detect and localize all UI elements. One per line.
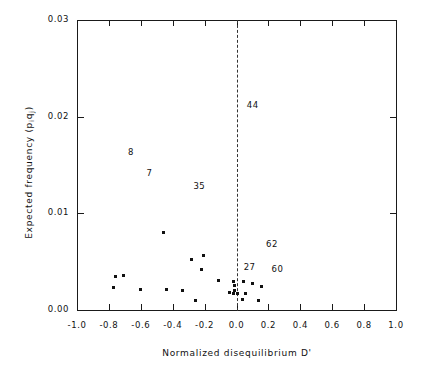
y-tick-right <box>390 20 397 21</box>
data-point <box>217 279 220 282</box>
x-tick <box>141 304 142 310</box>
data-point <box>190 258 193 261</box>
y-tick-right <box>390 117 397 118</box>
x-tick-top <box>173 20 174 26</box>
data-point <box>251 282 254 285</box>
data-point <box>244 292 247 295</box>
x-tick-top <box>300 20 301 26</box>
data-point-label: 35 <box>193 181 205 191</box>
data-point-label: 60 <box>272 264 284 274</box>
axis-right <box>396 20 397 311</box>
x-tick <box>332 304 333 310</box>
x-tick-top <box>205 20 206 26</box>
x-tick-top <box>141 20 142 26</box>
data-point <box>139 288 142 291</box>
y-tick-right <box>390 310 397 311</box>
axis-left <box>77 20 78 311</box>
data-point-label: 8 <box>128 147 134 157</box>
x-tick <box>300 304 301 310</box>
y-tick <box>77 20 84 21</box>
data-point <box>257 299 260 302</box>
data-point <box>232 280 235 283</box>
data-point <box>181 289 184 292</box>
data-point <box>194 299 197 302</box>
y-tick <box>77 117 84 118</box>
data-point <box>242 280 245 283</box>
y-tick <box>77 213 84 214</box>
data-point-label: 7 <box>146 168 152 178</box>
data-point <box>202 254 205 257</box>
data-point <box>200 268 203 271</box>
data-point-label: 27 <box>244 262 256 272</box>
reference-line-zero <box>237 20 238 311</box>
x-tick-top <box>332 20 333 26</box>
data-point <box>236 292 239 295</box>
x-tick-label: 1.0 <box>376 320 416 330</box>
y-tick-right <box>390 213 397 214</box>
y-axis-title: Expected frequency (piqj) <box>24 72 37 272</box>
data-point <box>162 231 165 234</box>
data-point <box>233 284 236 287</box>
y-tick-label: 0.03 <box>29 14 69 24</box>
x-tick <box>364 304 365 310</box>
data-point <box>114 275 117 278</box>
data-point <box>232 292 235 295</box>
x-axis-title: Normalized disequilibrium D' <box>77 348 397 358</box>
scatter-plot-figure: 448735622760 -1.0-0.8-0.6-0.4-0.20.00.20… <box>0 0 428 372</box>
x-tick-top <box>109 20 110 26</box>
data-point-label: 62 <box>266 239 278 249</box>
y-axis-title-text: Expected frequency (piqj) <box>24 106 34 239</box>
x-tick <box>109 304 110 310</box>
x-tick-top <box>268 20 269 26</box>
data-point <box>228 291 231 294</box>
x-tick <box>173 304 174 310</box>
data-point <box>122 274 125 277</box>
x-tick-top <box>364 20 365 26</box>
y-tick-label: 0.00 <box>29 304 69 314</box>
data-point <box>241 298 244 301</box>
data-point <box>112 286 115 289</box>
x-tick <box>268 304 269 310</box>
data-point <box>165 288 168 291</box>
data-point-label: 44 <box>247 100 259 110</box>
x-tick <box>205 304 206 310</box>
data-point <box>260 285 263 288</box>
y-tick <box>77 310 84 311</box>
